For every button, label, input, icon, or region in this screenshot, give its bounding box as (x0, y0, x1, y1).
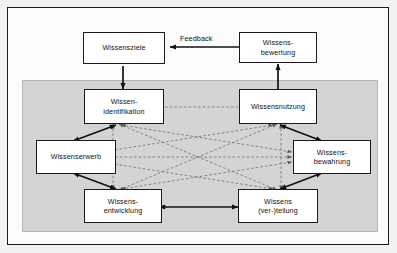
node-wissensbewertung[interactable]: Wissens- bewertung (239, 32, 317, 63)
node-wissensbewahrung-label-line2: bewahrung (314, 157, 350, 166)
node-wissensentwicklung-label-line1: Wissens- (108, 197, 138, 206)
node-wissensnutzung[interactable]: Wissensnutzung (239, 89, 317, 124)
edge-identifikation-bewahrung (121, 125, 292, 152)
node-wissensbewertung-label-line1: Wissens- (263, 38, 293, 47)
solid-process-edges (73, 47, 322, 207)
knowledge-management-diagram: Wissensziele Wissens- bewertung Wissen- … (0, 0, 397, 253)
edge-verteilung-bewahrung (280, 173, 322, 189)
edge-label-feedback: Feedback (180, 34, 212, 43)
node-wissensziele[interactable]: Wissensziele (83, 32, 165, 64)
edge-identifikation-erwerb (73, 125, 116, 141)
node-wissensentwicklung[interactable]: Wissens- entwicklung (84, 189, 162, 223)
edge-bewahrung-nutzung (280, 125, 322, 141)
node-wissensbewertung-label-line2: bewertung (261, 48, 295, 57)
node-wissensentwicklung-label-line2: entwicklung (104, 206, 143, 215)
node-wissenserwerb-label: Wissenserwerb (51, 152, 101, 161)
node-wissensnutzung-label: Wissensnutzung (251, 102, 305, 111)
node-wissensziele-label: Wissensziele (102, 43, 145, 52)
node-wissenidentifikation[interactable]: Wissen- identifikation (84, 89, 164, 124)
node-wissenidentifikation-label-line2: identifikation (103, 107, 144, 116)
edge-erwerb-nutzung (101, 125, 273, 152)
edge-entwicklung-bewahrung (121, 162, 292, 189)
node-wissensbewahrung[interactable]: Wissens- bewahrung (293, 140, 371, 174)
edge-erwerb-entwicklung (73, 173, 116, 189)
node-wissensbewahrung-label-line1: Wissens- (317, 148, 347, 157)
node-wissensverteilung-label-line2: (ver-)teilung (258, 206, 298, 215)
node-wissensverteilung[interactable]: Wissens (ver-)teilung (238, 189, 318, 223)
node-wissenserwerb[interactable]: Wissenserwerb (36, 140, 116, 174)
edge-erwerb-verteilung (101, 162, 273, 189)
node-wissenidentifikation-label-line1: Wissen- (111, 97, 138, 106)
node-wissensverteilung-label-line1: Wissens (264, 197, 292, 206)
